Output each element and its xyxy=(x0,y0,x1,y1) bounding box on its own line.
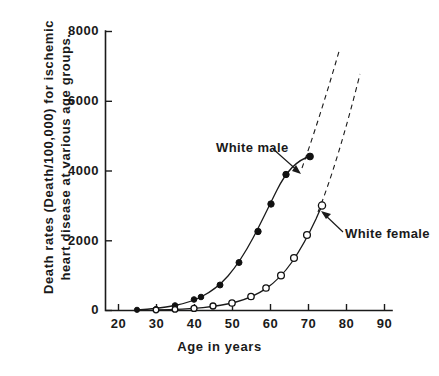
series-label-white-female: White female xyxy=(345,226,430,241)
x-tick-label-90: 90 xyxy=(370,316,399,331)
chart-figure: 8000 6000 4000 2000 0 20 30 40 50 60 70 … xyxy=(0,0,439,376)
x-tick-label-40: 40 xyxy=(180,316,209,331)
axis-lines xyxy=(106,31,393,311)
white-female-markers xyxy=(153,202,325,313)
white-female-leader-line xyxy=(321,211,343,232)
x-tick-label-20: 20 xyxy=(104,316,133,331)
white-male-markers xyxy=(134,153,313,312)
white-male-curve xyxy=(137,157,310,310)
x-tick-label-60: 60 xyxy=(256,316,285,331)
x-axis-title: Age in years xyxy=(0,339,439,354)
x-tick-label-80: 80 xyxy=(332,316,361,331)
y-axis-ticks xyxy=(106,32,113,311)
x-tick-label-70: 70 xyxy=(294,316,323,331)
white-male-extrapolation xyxy=(302,48,340,168)
series-label-white-male: White male xyxy=(216,140,289,155)
x-tick-label-30: 30 xyxy=(142,316,171,331)
y-axis-title: Death rates (Death/100,000) for ischemic… xyxy=(40,7,74,307)
x-tick-label-50: 50 xyxy=(218,316,247,331)
white-female-extrapolation xyxy=(318,74,360,212)
